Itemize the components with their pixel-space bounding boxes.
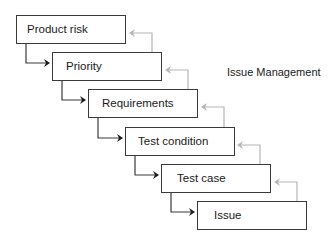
step-label: Test condition [138,135,208,147]
step-priority: Priority [52,52,162,81]
return-arrow-3 [205,107,224,127]
step-requirements: Requirements [88,89,198,118]
step-label: Test case [177,172,226,184]
return-arrow-4 [241,145,260,164]
step-test-case: Test case [161,164,271,193]
diagram-title: Issue Management [227,66,321,78]
step-product-risk: Product risk [16,15,126,44]
step-label: Issue [214,209,242,221]
step-issue: Issue [197,201,307,230]
forward-arrow-2 [62,81,82,100]
step-label: Priority [66,60,102,72]
forward-arrow-5 [171,193,191,212]
step-label: Requirements [102,97,174,109]
return-arrow-1 [133,33,152,52]
return-arrow-2 [169,70,188,89]
forward-arrow-4 [135,156,155,175]
forward-arrow-3 [98,118,119,138]
forward-arrow-1 [26,44,46,63]
return-arrow-5 [278,182,297,201]
step-label: Product risk [27,23,88,35]
step-test-condition: Test condition [125,127,235,156]
